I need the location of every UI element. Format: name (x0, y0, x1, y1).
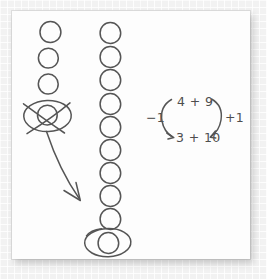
equation-top-expression: 4 + 9 (177, 94, 213, 109)
left-circle-1 (40, 22, 61, 43)
right-circle-7 (100, 163, 121, 184)
equation-right-annotation: +1 (225, 110, 244, 125)
equation-group: −1 4 + 9 3 + 10 +1 (146, 94, 244, 145)
right-circle-2 (100, 47, 121, 68)
right-circle-4 (100, 94, 121, 115)
move-counter-arrow (47, 132, 81, 201)
right-circle-1 (100, 23, 121, 44)
left-circle-2 (38, 48, 58, 68)
right-circle-5 (100, 117, 121, 138)
right-circle-10-circled (98, 233, 119, 254)
right-circle-6 (100, 140, 121, 161)
right-circle-3 (100, 70, 121, 91)
arrow-shaft (47, 132, 80, 200)
left-circle-3 (38, 74, 58, 94)
cross-out-x-stroke-2 (27, 103, 70, 134)
equation-left-arrowhead (167, 133, 174, 139)
handwritten-sketch: −1 4 + 9 3 + 10 +1 (0, 0, 267, 279)
left-column-group (37, 22, 60, 125)
right-column-group (98, 23, 121, 254)
cross-out-x-stroke-1 (24, 104, 65, 133)
right-circle-9 (100, 209, 121, 230)
right-circle-8 (100, 186, 121, 207)
